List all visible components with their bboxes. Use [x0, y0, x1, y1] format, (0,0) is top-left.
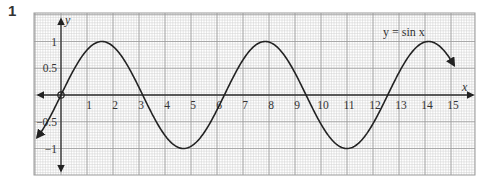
x-tick-label: 5: [190, 99, 196, 111]
x-tick-label: 9: [294, 99, 300, 111]
y-tick-label: 0.5: [43, 62, 58, 74]
y-axis-label: y: [64, 13, 71, 27]
x-tick-label: 13: [395, 99, 407, 111]
function-label: y = sin x: [383, 25, 425, 39]
sine-chart: 12345678910111213141510.5−0.5−1 y = sin …: [0, 0, 483, 183]
x-tick-label: 12: [369, 99, 381, 111]
y-tick-label: 1: [51, 36, 57, 48]
x-tick-label: 3: [138, 99, 144, 111]
x-tick-label: 8: [268, 99, 274, 111]
x-tick-label: 1: [86, 99, 92, 111]
x-tick-label: 11: [343, 99, 354, 111]
x-tick-label: 15: [447, 99, 459, 111]
x-axis-label: x: [461, 80, 468, 94]
x-tick-label: 2: [112, 99, 118, 111]
y-tick-label: −1: [45, 143, 57, 155]
x-tick-label: 4: [164, 99, 170, 111]
x-tick-label: 14: [421, 99, 433, 111]
x-tick-label: 10: [317, 99, 329, 111]
x-tick-label: 7: [242, 99, 248, 111]
